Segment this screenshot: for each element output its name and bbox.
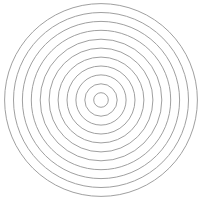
circle-ring xyxy=(85,84,117,116)
circle-ring xyxy=(31,30,170,169)
circle-ring xyxy=(67,66,135,134)
image-canvas xyxy=(0,0,201,199)
circle-ring xyxy=(58,57,144,143)
circle-ring xyxy=(49,48,153,152)
circle-ring xyxy=(5,4,198,197)
circle-ring xyxy=(22,21,179,178)
concentric-circles-figure xyxy=(0,0,201,199)
circle-ring xyxy=(94,93,109,108)
circle-ring xyxy=(76,75,126,125)
